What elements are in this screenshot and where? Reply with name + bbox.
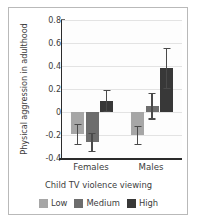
- error-bar: [77, 124, 78, 145]
- legend-swatch-icon: [74, 199, 83, 208]
- chart-legend: LowMediumHigh: [0, 198, 197, 208]
- legend-label: Low: [51, 198, 68, 208]
- error-bar: [106, 90, 107, 111]
- gridline: [62, 20, 182, 21]
- error-bar: [91, 133, 92, 151]
- error-bar-cap: [89, 151, 96, 152]
- legend-label: Medium: [86, 198, 120, 208]
- y-tick-label: -0.4: [35, 154, 61, 163]
- error-bar-cap: [74, 124, 81, 125]
- error-bar-cap: [149, 93, 156, 94]
- error-bar-cap: [149, 118, 156, 119]
- y-axis-ticks: 0.80.60.40.20-0.2-0.4: [33, 20, 61, 158]
- y-tick-label: -0.2: [35, 131, 61, 140]
- error-bar: [151, 93, 152, 118]
- y-tick-label: 0: [35, 108, 61, 117]
- legend-label: High: [139, 198, 158, 208]
- gridline: [62, 43, 182, 44]
- error-bar-cap: [134, 144, 141, 145]
- legend-item[interactable]: Medium: [74, 198, 120, 208]
- legend-item[interactable]: High: [127, 198, 158, 208]
- y-tick-label: 0.6: [35, 39, 61, 48]
- error-bar-cap: [89, 133, 96, 134]
- y-tick-label: 0.2: [35, 85, 61, 94]
- error-bar: [137, 126, 138, 144]
- x-group-label: Males: [139, 162, 164, 172]
- y-tick-label: 0.4: [35, 62, 61, 71]
- legend-swatch-icon: [39, 199, 48, 208]
- y-tick-label: 0.8: [35, 16, 61, 25]
- x-axis-title: Child TV violence viewing: [0, 180, 197, 190]
- error-bar-cap: [74, 144, 81, 145]
- error-bar: [166, 48, 167, 88]
- error-bar-cap: [103, 90, 110, 91]
- error-bar-cap: [163, 88, 170, 89]
- gridline: [62, 135, 182, 136]
- legend-swatch-icon: [127, 199, 136, 208]
- y-axis-title: Physical aggression in adulthood: [19, 19, 29, 159]
- legend-item[interactable]: Low: [39, 198, 68, 208]
- plot-area: [61, 20, 182, 158]
- error-bar-cap: [163, 48, 170, 49]
- x-axis-line: [59, 158, 182, 160]
- error-bar-cap: [134, 126, 141, 127]
- chart-figure: Physical aggression in adulthood 0.80.60…: [0, 0, 197, 223]
- x-group-label: Females: [73, 162, 109, 172]
- error-bar-cap: [103, 111, 110, 112]
